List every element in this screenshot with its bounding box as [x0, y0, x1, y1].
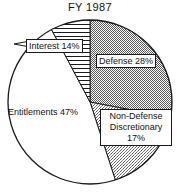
slice-label-nd-line-2: Discretionary	[103, 122, 169, 133]
slice-label-nd-line-1: Non-Defense	[103, 111, 169, 122]
slice-label-nd-line-3: 17%	[103, 133, 169, 144]
slice-label-interest: Interest 14%	[26, 39, 83, 53]
slice-label-non-defense-discretionary: Non-Defense Discretionary 17%	[100, 109, 172, 146]
slice-label-defense: Defense 28%	[96, 54, 156, 68]
pie-chart: FY 1987	[0, 0, 180, 193]
pie-slice-defense	[90, 20, 172, 118]
slice-label-entitlements: Entitlements 47%	[8, 107, 78, 117]
pie-chart-graphic	[0, 0, 180, 193]
